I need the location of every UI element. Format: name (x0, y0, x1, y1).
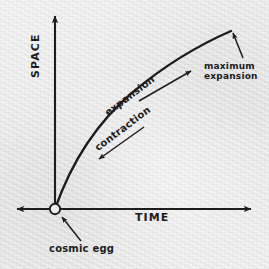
space-axis-label: SPACE (30, 33, 43, 78)
maximum-expansion-leader-arrow (233, 33, 243, 58)
cosmic-egg-leader-arrow (62, 217, 81, 241)
cosmic-egg-marker (50, 204, 60, 214)
time-axis-label: TIME (135, 212, 169, 225)
maximum-expansion-label-line1: maximum (204, 61, 258, 71)
cosmology-space-time-diagram: SPACE TIME expansion contraction maximum… (0, 0, 269, 269)
cosmic-egg-label: cosmic egg (49, 243, 114, 255)
maximum-expansion-label-line2: expansion (204, 71, 258, 81)
maximum-expansion-label: maximum expansion (204, 61, 258, 82)
